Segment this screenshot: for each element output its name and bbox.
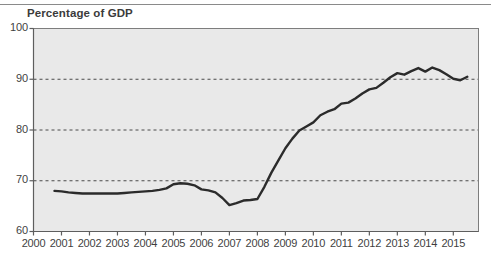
chart-figure: Percentage of GDP 60708090100 2000200120… (0, 0, 491, 254)
y-tick-label-70: 70 (0, 173, 28, 185)
y-tick-label-60: 60 (0, 224, 28, 236)
chart-plot-area (0, 0, 491, 254)
y-tick-label-100: 100 (0, 21, 28, 33)
y-tick-label-90: 90 (0, 72, 28, 84)
x-tick-label-2015: 2015 (433, 237, 473, 249)
y-tick-label-80: 80 (0, 123, 28, 135)
